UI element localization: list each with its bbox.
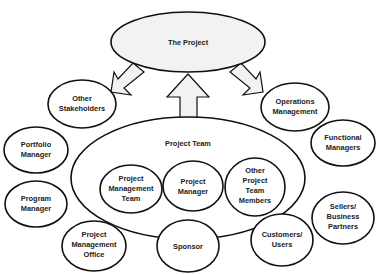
functional-managers-node: Functional Managers [311,120,375,166]
node-label: Other [245,166,265,175]
node-label: Team [122,194,141,203]
arrow-team-to-project [167,74,209,118]
node-label: Manager [21,150,52,159]
node-label: Other [72,94,92,103]
node-label: Project [180,177,206,186]
node-label: Management [272,107,318,116]
arrow-to-other-stakeholders [111,63,144,95]
node-label: Management [71,240,117,249]
node-label: Users [272,240,293,249]
node-label: Sellers/ [330,202,356,211]
node-label: Project [242,176,268,185]
project-team-label: Project Team [165,139,211,148]
node-label: Business [327,212,360,221]
node-label: Manager [21,204,52,213]
sellers-business-partners-node: Sellers/ Business Partners [312,192,374,244]
node-label: Management [108,184,154,193]
the-project-node: The Project [111,12,265,72]
node-label: Project [81,230,107,239]
project-management-team-node: Project Management Team [100,165,162,213]
program-manager-node: Program Manager [5,181,67,227]
sponsor-node: Sponsor [157,220,219,272]
node-label: Team [246,186,265,195]
arrow-to-operations-management [230,63,263,95]
node-label: Functional [324,133,361,142]
portfolio-manager-node: Portfolio Manager [4,127,68,173]
project-manager-node: Project Manager [163,161,223,211]
node-label: Sponsor [173,242,203,251]
node-label: Operations [275,97,314,106]
node-label: Members [239,196,271,205]
node-label: Customers/ [262,230,303,239]
node-label: Manager [178,187,209,196]
project-management-office-node: Project Management Office [62,221,126,271]
node-label: Project [118,174,144,183]
node-label: Managers [326,143,361,152]
node-label: Portfolio [21,140,52,149]
operations-management-node: Operations Management [261,83,329,131]
the-project-label: The Project [168,38,209,47]
other-project-team-members-node: Other Project Team Members [225,158,285,216]
node-label: Office [84,250,105,259]
customers-users-node: Customers/ Users [251,214,313,266]
other-stakeholders-node: Other Stakeholders [48,80,116,128]
node-label: Partners [328,222,358,231]
node-label: Program [21,194,52,203]
stakeholder-diagram: The Project Project Team Project Managem… [0,0,377,274]
node-label: Stakeholders [59,104,105,113]
